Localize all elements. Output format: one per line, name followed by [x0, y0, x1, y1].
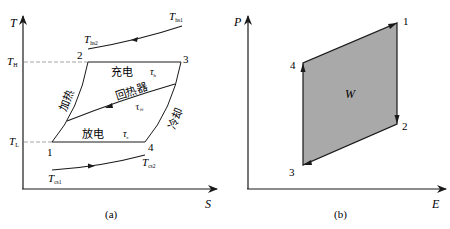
- pe-point-3-label: 3: [289, 166, 295, 178]
- charge-label: 充电: [111, 65, 133, 79]
- charge-ratio-label: τh: [150, 66, 157, 78]
- point-3-label: 3: [183, 53, 189, 65]
- e-axis-label: E: [431, 197, 440, 211]
- ths1-label: Ths1: [169, 10, 183, 23]
- hot-stream-curve: [88, 26, 182, 49]
- point-2-label: 2: [77, 49, 83, 61]
- tcs1-label: Tcs1: [48, 172, 62, 185]
- discharge-ratio-label: τc: [123, 128, 130, 140]
- heating-label: 加热: [57, 88, 77, 113]
- regenerator-arrow-icon: [105, 103, 113, 108]
- pe-point-4-label: 4: [290, 59, 296, 71]
- point-4-label: 4: [148, 141, 154, 153]
- tl-label: TL: [9, 135, 19, 148]
- cooling-label: 冷却: [166, 106, 186, 131]
- point-1-label: 1: [47, 146, 53, 158]
- cold-stream-curve: [52, 155, 145, 170]
- panel-b-pe-diagram: P E W 1 2 3 4 (b): [233, 15, 446, 221]
- ths2-label: Ths2: [84, 33, 98, 46]
- s-axis-label: S: [205, 197, 211, 211]
- pe-point-2-label: 2: [402, 120, 408, 132]
- th-label: TH: [7, 55, 18, 68]
- panel-a-ts-diagram: T S TH TL Ths1 Ths2 Tcs1 Tcs2 1 2 3 4 充电: [7, 10, 217, 221]
- p-axis-label: P: [233, 15, 242, 29]
- regenerator-ratio-label: τre: [134, 100, 144, 113]
- figure: T S TH TL Ths1 Ths2 Tcs1 Tcs2 1 2 3 4 充电: [0, 0, 450, 229]
- discharge-label: 放电: [82, 127, 104, 141]
- tcs2-label: Tcs2: [142, 156, 156, 169]
- area-label: W: [345, 87, 356, 101]
- pe-point-1-label: 1: [403, 15, 409, 27]
- panel-a-caption: (a): [105, 208, 118, 221]
- cold-stream-arrow-icon: [88, 164, 95, 169]
- t-axis-label: T: [10, 16, 18, 30]
- regenerator-label: 回热器: [114, 80, 149, 103]
- panel-b-caption: (b): [334, 208, 347, 221]
